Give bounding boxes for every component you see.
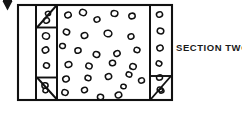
section-two-figure: SECTION TWO (0, 0, 242, 117)
section-label: SECTION TWO (176, 42, 242, 53)
section-drawing (0, 0, 242, 117)
